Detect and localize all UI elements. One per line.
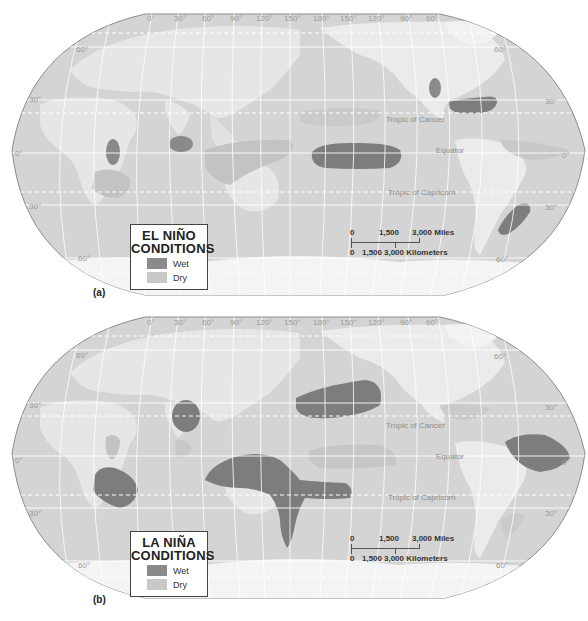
equator-label: Equator [436,146,464,155]
lon-label: 120° [256,318,273,327]
lon-label: 150° [284,318,301,327]
lon-label: 180° [313,318,330,327]
lon-label: 0° [147,14,155,23]
wet-region-south-india [169,136,193,152]
equator-label: Equator [436,452,464,461]
lat-label: 0° [15,149,23,158]
panel-label-b: (b) [93,594,106,605]
lon-label: 90° [400,318,412,327]
tropic-of-capricorn-label: Tropic of Capricorn [388,493,456,502]
scale-km-0: 0 [350,554,354,563]
legend-title: LA NIÑA CONDITIONS [131,536,207,562]
scale-miles-0: 0 [350,534,354,543]
scale-km-3000: 3,000 Kilometers [384,248,448,257]
lat-label: 0° [562,151,570,160]
lon-label: 150° [340,14,357,23]
lon-label: 30° [174,14,186,23]
scale-km-3000: 3,000 Kilometers [384,554,448,563]
lat-label: 0° [15,456,23,465]
wet-swatch [147,565,167,576]
lat-label: 60° [494,45,506,54]
lat-label: 30° [545,403,557,412]
lon-label: 120° [368,318,385,327]
lon-label: 90° [400,14,412,23]
panel-label-a: (a) [93,287,105,298]
el-nino-legend: EL NIÑO CONDITIONS Wet Dry [130,224,208,290]
lat-label: 30° [29,401,41,410]
lon-label: 60° [426,14,438,23]
dry-region-central-pacific [309,445,396,469]
lon-label: 150° [340,318,357,327]
wet-region-east-africa [106,139,120,165]
wet-region-western-us [429,78,441,98]
lat-label: 60° [78,254,90,263]
lat-label: 30° [29,509,41,518]
lon-label: 150° [284,14,301,23]
el-nino-world-map: 0° 30° 60° 90° 120° 150° 180° 150° 120° … [0,0,588,310]
lat-label: 60° [76,351,88,360]
scale-miles-3000: 3,000 Miles [412,534,454,543]
lon-label: 60° [202,14,214,23]
legend-item-dry: Dry [131,272,207,283]
legend-item-wet: Wet [131,258,207,269]
lat-label: 60° [76,45,88,54]
scale-km-1500: 1,500 [362,554,382,563]
lon-label: 120° [368,14,385,23]
lat-label: 30° [545,509,557,518]
legend-title: EL NIÑO CONDITIONS [131,229,207,255]
scale-miles-3000: 3,000 Miles [412,228,454,237]
lon-label: 90° [230,14,242,23]
scale-miles-0: 0 [350,228,354,237]
tropic-of-cancer-label: Tropic of Cancer [386,421,445,430]
scale-km-0: 0 [350,248,354,257]
wet-swatch [147,258,167,269]
lon-label: 60° [426,318,438,327]
legend-item-dry: Dry [131,579,207,590]
lat-label: 30° [29,202,41,211]
scale-bar: 0 1,500 3,000 Miles 0 1,500 3,000 Kilome… [350,534,510,564]
antarctica-land [0,256,588,310]
scale-miles-1500: 1,500 [379,228,399,237]
scale-km-1500: 1,500 [362,248,382,257]
lat-label: 60° [78,561,90,570]
el-nino-map-panel: 0° 30° 60° 90° 120° 150° 180° 150° 120° … [0,0,588,310]
lon-label: 120° [256,14,273,23]
scale-miles-1500: 1,500 [379,534,399,543]
lon-label: 30° [174,318,186,327]
scale-bar: 0 1,500 3,000 Miles 0 1,500 3,000 Kilome… [350,228,510,258]
lat-label: 30° [545,203,557,212]
la-nina-world-map: 0° 30° 60° 90° 120° 150° 180° 150° 120° … [0,310,588,620]
tropic-of-cancer-label: Tropic of Cancer [386,115,445,124]
lat-label: 30° [29,95,41,104]
lon-label: 90° [230,318,242,327]
lat-label: 30° [545,97,557,106]
tropic-of-capricorn-label: Tropic of Capricorn [388,188,456,197]
lat-label: 60° [494,352,506,361]
dry-swatch [147,272,167,283]
lon-label: 0° [147,318,155,327]
la-nina-legend: LA NIÑA CONDITIONS Wet Dry [130,531,208,597]
dry-swatch [147,579,167,590]
lat-label: 0° [562,458,570,467]
lon-label: 60° [202,318,214,327]
legend-item-wet: Wet [131,565,207,576]
la-nina-map-panel: 0° 30° 60° 90° 120° 150° 180° 150° 120° … [0,310,588,620]
lon-label: 180° [313,14,330,23]
